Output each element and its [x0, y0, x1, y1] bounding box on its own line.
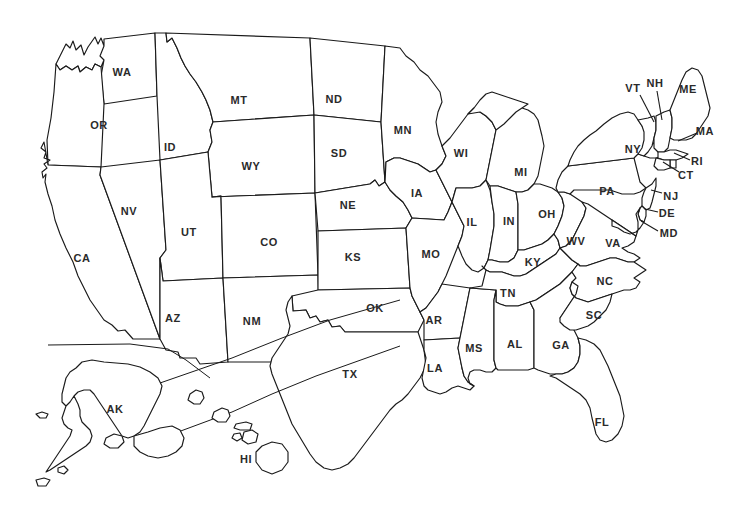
state-label-MA[interactable]: MA [696, 126, 714, 137]
state-shape-OR[interactable] [47, 64, 104, 167]
state-shape-NJ-shape[interactable] [642, 178, 656, 210]
state-label-SC[interactable]: SC [586, 310, 602, 321]
state-shape-AK[interactable] [46, 360, 162, 472]
state-label-VA[interactable]: VA [605, 238, 621, 249]
us-map-svg [0, 0, 755, 529]
state-label-NM[interactable]: NM [243, 316, 261, 327]
state-label-RI[interactable]: RI [691, 156, 703, 167]
state-shape-AK-kodiak[interactable] [104, 434, 124, 448]
state-label-OK[interactable]: OK [366, 303, 384, 314]
state-label-OH[interactable]: OH [538, 209, 556, 220]
state-label-AZ[interactable]: AZ [165, 313, 181, 324]
state-shape-HI-kauai[interactable] [188, 390, 204, 404]
state-shape-WY[interactable] [208, 115, 315, 197]
state-label-NE[interactable]: NE [340, 200, 356, 211]
state-shape-KS[interactable] [318, 228, 410, 290]
state-shape-NH-shape[interactable] [654, 110, 672, 152]
state-label-PA[interactable]: PA [599, 186, 615, 197]
state-label-GA[interactable]: GA [552, 340, 570, 351]
state-shape-MA-shape[interactable] [658, 150, 688, 160]
state-label-IL[interactable]: IL [467, 217, 478, 228]
state-label-ND[interactable]: ND [325, 94, 342, 105]
state-label-AL[interactable]: AL [507, 339, 523, 350]
state-label-FL[interactable]: FL [595, 417, 610, 428]
state-label-MN[interactable]: MN [394, 125, 412, 136]
us-map-container: WAORCANVIDMTWYUTAZCONMNDSDNEKSOKTXMNIAMO… [0, 0, 755, 529]
state-label-KY[interactable]: KY [525, 257, 541, 268]
state-label-WA[interactable]: WA [113, 67, 132, 78]
state-label-NY[interactable]: NY [625, 144, 641, 155]
state-label-TN[interactable]: TN [500, 288, 516, 299]
state-label-NJ[interactable]: NJ [663, 191, 678, 202]
state-label-UT[interactable]: UT [181, 227, 197, 238]
state-label-VT[interactable]: VT [625, 83, 640, 94]
state-shape-AK-panhandle[interactable] [134, 426, 184, 458]
state-shape-HI-molokai[interactable] [234, 422, 252, 430]
state-label-WY[interactable]: WY [242, 161, 261, 172]
state-label-CO[interactable]: CO [260, 237, 278, 248]
state-shape-CT-shape[interactable] [654, 158, 670, 170]
state-label-MD[interactable]: MD [660, 228, 678, 239]
state-shape-HI-bigisland[interactable] [256, 442, 288, 474]
state-label-IN[interactable]: IN [503, 216, 515, 227]
state-shape-RI-shape[interactable] [670, 160, 676, 168]
state-label-NH[interactable]: NH [646, 78, 663, 89]
state-label-MT[interactable]: MT [230, 95, 247, 106]
state-label-NC[interactable]: NC [596, 276, 613, 287]
state-shape-HI-maui[interactable] [242, 430, 258, 444]
state-label-TX[interactable]: TX [342, 369, 357, 380]
state-label-AK[interactable]: AK [106, 404, 123, 415]
state-shape-AK-aleutians-1[interactable] [36, 412, 48, 418]
state-label-LA[interactable]: LA [427, 363, 443, 374]
state-label-SD[interactable]: SD [331, 148, 347, 159]
state-label-MS[interactable]: MS [465, 343, 483, 354]
state-label-WI[interactable]: WI [454, 148, 469, 159]
state-label-DE[interactable]: DE [659, 208, 675, 219]
state-label-MO[interactable]: MO [422, 249, 441, 260]
state-label-ID[interactable]: ID [164, 142, 176, 153]
state-label-KS[interactable]: KS [345, 252, 361, 263]
state-shape-AK-aleutians-3[interactable] [36, 478, 50, 486]
state-label-MI[interactable]: MI [514, 167, 527, 178]
state-shape-HI-oahu[interactable] [212, 408, 230, 422]
state-label-OR[interactable]: OR [90, 120, 108, 131]
state-label-HI[interactable]: HI [240, 454, 252, 465]
state-shape-ND[interactable] [310, 38, 385, 122]
state-shape-HI-lanai[interactable] [232, 433, 242, 441]
state-label-IA[interactable]: IA [411, 188, 423, 199]
state-label-CA[interactable]: CA [73, 253, 90, 264]
state-label-NV[interactable]: NV [121, 206, 137, 217]
state-label-AR[interactable]: AR [425, 315, 442, 326]
state-shape-AK-aleutians-2[interactable] [58, 466, 68, 474]
state-label-WV[interactable]: WV [567, 236, 586, 247]
state-label-CT[interactable]: CT [678, 170, 694, 181]
state-label-ME[interactable]: ME [679, 84, 697, 95]
